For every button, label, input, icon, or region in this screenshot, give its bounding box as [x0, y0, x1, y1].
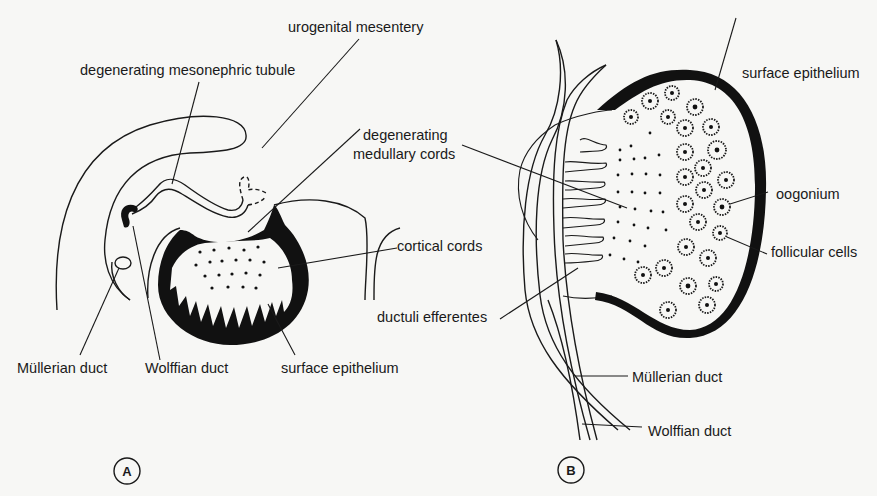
panel-b-letter: B [566, 463, 575, 478]
label-degenerating-medullary-cords-2: medullary cords [353, 146, 455, 162]
label-cortical-cords: cortical cords [397, 238, 482, 254]
gonad-development-figure: urogenital mesentery degenerating mesone… [0, 0, 877, 496]
label-mullerian-duct-a: Müllerian duct [17, 360, 107, 376]
panel-a-diagram: urogenital mesentery degenerating mesone… [17, 19, 482, 484]
label-surface-epithelium-a: surface epithelium [281, 360, 399, 376]
label-wolffian-duct-b: Wolffian duct [648, 423, 731, 439]
label-ductuli-efferentes: ductuli efferentes [377, 309, 487, 325]
label-degenerating-mesonephric-tubule: degenerating mesonephric tubule [80, 62, 295, 78]
label-urogenital-mesentery: urogenital mesentery [288, 19, 424, 35]
ovary-surface-epithelium [595, 70, 766, 338]
degenerating-medullary-cords-b [609, 132, 668, 264]
ductuli-efferentes [563, 139, 607, 263]
label-surface-epithelium-b: surface epithelium [742, 65, 860, 81]
label-follicular-cells: follicular cells [771, 244, 857, 260]
label-degenerating-medullary-cords-1: degenerating [363, 127, 448, 143]
panel-a-letter: A [122, 464, 132, 479]
wolffian-duct-shape [121, 205, 138, 228]
label-oogonium: oogonium [776, 186, 840, 202]
label-mullerian-duct-b: Müllerian duct [632, 369, 722, 385]
label-wolffian-duct-a: Wolffian duct [145, 360, 228, 376]
mullerian-duct-oval [115, 257, 131, 269]
oogonia-follicles [624, 86, 734, 318]
